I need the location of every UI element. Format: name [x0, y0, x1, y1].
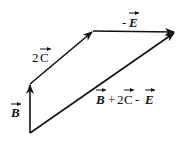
label-neg-e: - E	[122, 13, 139, 30]
label-2c-coef: 2	[32, 50, 39, 65]
resultant-b: B	[95, 92, 105, 107]
resultant-e: E	[144, 92, 154, 107]
resultant-c: C	[124, 92, 133, 107]
vector-diagram: B 2 C - E B + 2 C - E	[0, 0, 185, 142]
label-neg-e-sign: -	[122, 15, 126, 30]
label-neg-e-letter: E	[128, 15, 138, 30]
label-resultant: B + 2 C - E	[95, 90, 155, 107]
vector-neg-e-arrow	[93, 31, 174, 32]
resultant-plus: +	[108, 92, 115, 107]
label-b: B	[10, 104, 21, 120]
label-2c: 2 C	[32, 49, 51, 65]
resultant-minus: -	[135, 92, 139, 107]
resultant-vector-arrow	[30, 33, 174, 133]
label-b-letter: B	[10, 105, 20, 120]
resultant-two: 2	[117, 92, 124, 107]
label-2c-letter: C	[40, 50, 49, 65]
